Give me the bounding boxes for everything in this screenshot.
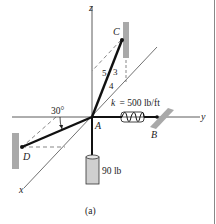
angle-label: 30° <box>51 106 65 116</box>
slope-rise: 3 <box>113 67 118 77</box>
weight-label: 90 lb <box>102 166 122 176</box>
weight-top <box>86 155 99 159</box>
point-d-label: D <box>22 151 31 162</box>
y-axis-label: y <box>200 111 206 122</box>
weight-cylinder <box>86 157 99 184</box>
slope-hyp: 5 <box>102 68 107 78</box>
point-b-label: B <box>151 129 157 140</box>
z-axis-label: z <box>88 2 93 13</box>
wall-b <box>150 108 174 129</box>
spring-k-symbol: k <box>111 98 116 108</box>
slope-run: 4 <box>109 81 114 91</box>
dashed-line-d <box>22 117 56 147</box>
statics-diagram: z y x C A B D 5 3 4 30° k = 500 lb/ft 90… <box>0 0 216 224</box>
figure-caption: (a) <box>85 206 96 217</box>
anchor-d <box>20 145 24 149</box>
anchor-c <box>120 38 124 42</box>
spring-constant: k = 500 lb/ft <box>111 98 160 108</box>
cable-ad <box>22 117 92 147</box>
point-a-label: A <box>94 120 102 131</box>
point-c-label: C <box>113 26 120 37</box>
wall-d <box>12 133 19 169</box>
x-axis-label: x <box>18 184 24 195</box>
anchor-b <box>155 115 159 119</box>
spring-k-value: = 500 lb/ft <box>120 98 161 108</box>
